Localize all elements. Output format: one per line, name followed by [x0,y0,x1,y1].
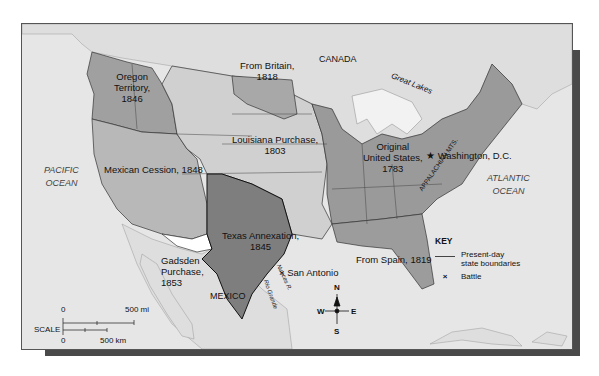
label-texas: Texas Annexation,1845 [222,230,299,252]
key-item-boundaries: Present-daystate boundaries [435,250,520,268]
scale-mi-zero: 0 [61,304,65,315]
compass-s: S [334,326,339,337]
label-atlantic-ocean: ATLANTICOCEAN [487,172,530,198]
label-britain: From Britain,1818 [240,60,294,82]
boundary-line-icon [435,256,455,257]
compass-w: W [317,306,325,317]
label-oregon: OregonTerritory,1846 [114,71,150,104]
scale-km-zero: 0 [61,335,65,346]
map-key: KEY Present-daystate boundaries × Battle [435,236,520,285]
map-frame: OregonTerritory,1846 From Britain,1818 C… [21,23,573,350]
compass-e: E [351,306,356,317]
scale-km-max: 500 km [100,335,126,346]
label-spain: From Spain, 1819 [356,254,432,265]
label-original: OriginalUnited States,1783 [363,141,423,174]
label-canada: CANADA [319,54,357,65]
region-spain [332,214,434,289]
key-title: KEY [435,236,520,246]
key-item-battle: × Battle [435,272,520,281]
label-mexican-cession: Mexican Cession, 1848 [104,164,203,175]
frame-shadow-right [572,50,580,356]
battle-x-icon: × [435,272,455,281]
label-pacific-ocean: PACIFICOCEAN [44,164,79,190]
scale-bar [63,318,134,335]
scale-mi-max: 500 mi [125,304,149,315]
compass-n: N [334,282,340,293]
label-mexico: MEXICO [210,291,246,302]
label-gadsden: GadsdenPurchase,1853 [161,255,204,288]
frame-shadow-bottom [45,349,580,356]
compass-rose [325,294,349,324]
hispaniola [532,332,567,346]
label-louisiana: Louisiana Purchase,1803 [232,134,318,156]
scale-label: SCALE [34,324,60,335]
cuba [430,328,522,346]
